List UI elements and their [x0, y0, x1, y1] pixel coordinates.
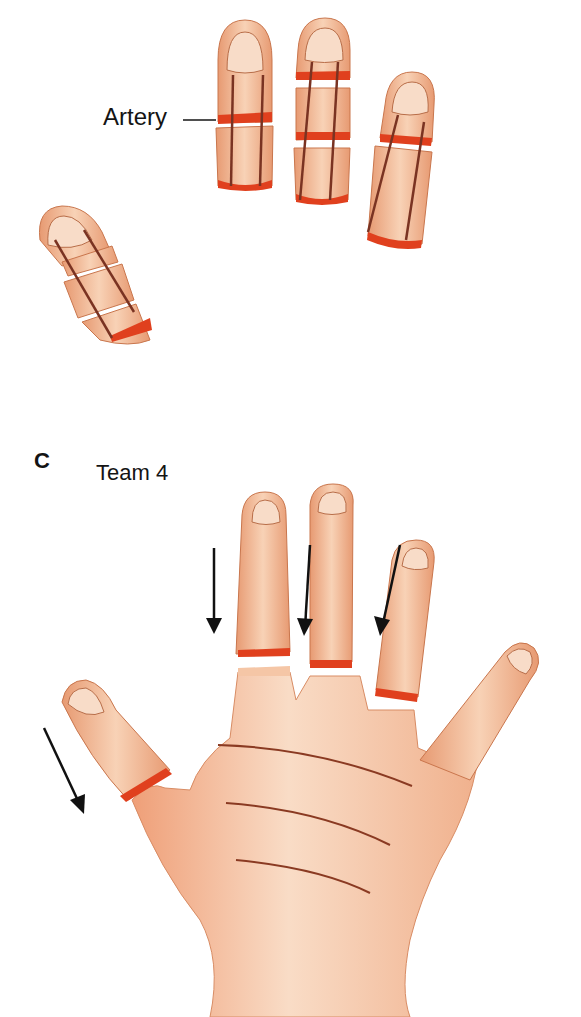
arrow-icon [206, 548, 222, 634]
amputated-finger-4 [39, 206, 152, 344]
amputated-finger-2 [294, 18, 350, 205]
artery-label: Artery [103, 103, 167, 131]
hand [132, 643, 539, 1017]
arrow-icon [44, 728, 85, 814]
amputated-finger-3 [367, 72, 434, 249]
team-label: Team 4 [96, 460, 168, 486]
panel-letter: C [34, 448, 50, 474]
hand-finger-middle-cut [310, 484, 353, 668]
amputated-finger-1 [216, 20, 273, 191]
illustration [0, 0, 581, 1017]
hand-thumb-cut [62, 680, 172, 802]
hand-finger-index-cut [236, 492, 290, 657]
